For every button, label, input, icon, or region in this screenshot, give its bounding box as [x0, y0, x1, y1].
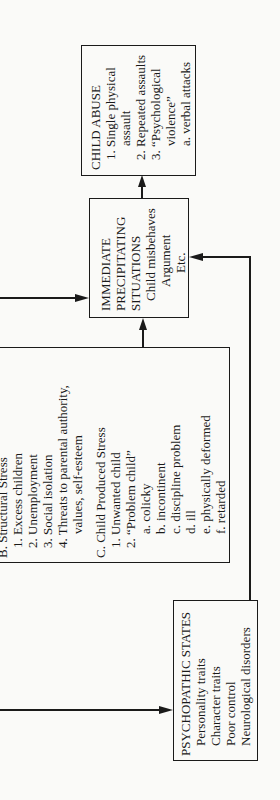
structural-stress-title: B. Structural Stress	[0, 385, 10, 558]
child-abuse-item: violence”	[163, 55, 178, 170]
structural-stress-item: values, self-esteem	[70, 385, 85, 558]
psychopathic-item: Personality traits	[193, 612, 208, 756]
connector-psychopathic-horizontal	[200, 256, 250, 258]
child-produced-stress-item: b. incontinent	[153, 385, 168, 558]
immediate-item: Argument	[158, 208, 173, 311]
structural-stress-item: 1. Excess children	[10, 385, 25, 558]
spacer	[85, 385, 93, 558]
stress-text: B. Structural Stress 1. Excess children …	[0, 385, 228, 558]
child-produced-stress-item: 1. Unwanted child	[108, 385, 123, 558]
connector-left-to-immediate	[0, 297, 80, 299]
connector-left-to-psychopathic	[0, 709, 160, 711]
child-abuse-item: a. verbal attacks	[178, 55, 193, 170]
psychopathic-states-box: PSYCHOPATHIC STATES Personality traits C…	[173, 600, 258, 761]
psychopathic-item: Poor control	[223, 612, 238, 756]
child-produced-stress-title: C. Child Produced Stress	[93, 385, 108, 558]
child-produced-stress-item: d. ill	[183, 385, 198, 558]
child-abuse-title: CHILD ABUSE	[88, 55, 103, 170]
immediate-title-line: SITUATIONS	[128, 208, 143, 311]
stress-box: B. Structural Stress 1. Excess children …	[0, 347, 230, 563]
child-abuse-text: CHILD ABUSE 1. Single physical assault 2…	[88, 55, 193, 170]
psychopathic-text: PSYCHOPATHIC STATES Personality traits C…	[178, 612, 253, 756]
immediate-title-line: PRECIPITATING	[113, 208, 128, 311]
child-abuse-box: CHILD ABUSE 1. Single physical assault 2…	[81, 45, 196, 176]
arrow-head-right-icon	[75, 294, 89, 302]
structural-stress-item: 4. Threats to parental authority,	[55, 385, 70, 558]
child-abuse-item: assault	[118, 55, 133, 170]
child-produced-stress-item: a. colicky	[138, 385, 153, 558]
arrow-head-up-icon	[138, 175, 146, 187]
immediate-title-line: IMMEDIATE	[98, 208, 113, 311]
arrow-head-right-icon	[159, 706, 173, 714]
immediate-item: Child misbehaves	[143, 208, 158, 311]
child-abuse-item: 1. Single physical	[103, 55, 118, 170]
psychopathic-item: Neurological disorders	[238, 612, 253, 756]
child-abuse-item: 3. “Psychological	[148, 55, 163, 170]
psychopathic-item: Character traits	[208, 612, 223, 756]
arrow-head-left-icon	[189, 253, 203, 261]
immediate-item: Etc.	[173, 208, 188, 311]
child-produced-stress-item: c. discipline problem	[168, 385, 183, 558]
structural-stress-item: 3. Social isolation	[40, 385, 55, 558]
connector-psychopathic-vertical	[249, 256, 251, 601]
child-produced-stress-item: f. retarded	[213, 385, 228, 558]
child-produced-stress-item: 2. “Problem child”	[123, 385, 138, 558]
immediate-situations-box: IMMEDIATE PRECIPITATING SITUATIONS Child…	[89, 198, 189, 318]
child-produced-stress-item: e. physically deformed	[198, 385, 213, 558]
immediate-text: IMMEDIATE PRECIPITATING SITUATIONS Child…	[98, 208, 188, 311]
psychopathic-title: PSYCHOPATHIC STATES	[178, 612, 193, 756]
structural-stress-item: 2. Unemployment	[25, 385, 40, 558]
arrow-head-up-icon	[139, 318, 147, 330]
child-abuse-item: 2. Repeated assaults	[133, 55, 148, 170]
